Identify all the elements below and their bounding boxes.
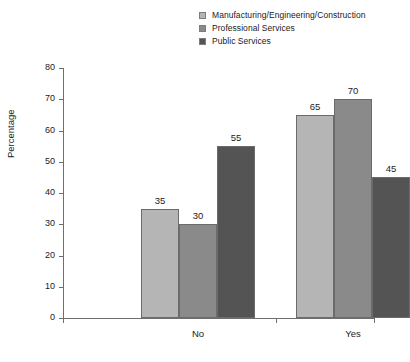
y-axis-tick-label: 80: [33, 63, 55, 72]
x-axis-tick: [276, 319, 277, 323]
bar: [217, 146, 255, 318]
legend-label-series-3: Public Services: [212, 36, 271, 46]
bar-value-label: 70: [348, 86, 359, 96]
legend-item-professional-services: Professional Services: [199, 22, 399, 35]
y-axis-tick-label: 0: [33, 313, 55, 322]
y-axis-tick: [59, 193, 63, 194]
legend-item-manufacturing-engineering-construction: Manufacturing/Engineering/Construction: [199, 9, 399, 22]
bar: [179, 224, 217, 318]
legend-swatch-icon-series-3: [199, 38, 206, 45]
y-axis-tick: [59, 256, 63, 257]
x-axis-category-label: Yes: [345, 328, 361, 339]
y-axis-tick-label: 20: [33, 251, 55, 260]
bar-value-label: 65: [310, 102, 321, 112]
y-axis-tick-label: 40: [33, 188, 55, 197]
y-axis-tick-label: 70: [33, 94, 55, 103]
y-axis-tick: [59, 287, 63, 288]
bar-value-label: 45: [386, 164, 397, 174]
bar: [334, 99, 372, 318]
legend-swatch-icon-series-1: [199, 12, 206, 19]
bar-value-label: 35: [155, 196, 166, 206]
legend-swatch-icon-series-2: [199, 25, 206, 32]
y-axis-tick: [59, 68, 63, 69]
legend-label-series-1: Manufacturing/Engineering/Construction: [212, 10, 366, 20]
bar: [372, 177, 410, 318]
x-axis-line: [63, 318, 375, 319]
bar: [141, 209, 179, 318]
y-axis-tick-label: 10: [33, 282, 55, 291]
x-axis-tick: [63, 319, 64, 323]
legend-item-public-services: Public Services: [199, 35, 399, 48]
y-axis-tick: [59, 131, 63, 132]
y-axis-tick-label: 50: [33, 157, 55, 166]
x-axis-category-label: No: [192, 328, 204, 339]
bar-value-label: 55: [231, 133, 242, 143]
y-axis-tick: [59, 224, 63, 225]
chart-legend: Manufacturing/Engineering/Construction P…: [199, 9, 399, 48]
y-axis-tick-label: 60: [33, 126, 55, 135]
y-axis-tick: [59, 99, 63, 100]
plot-area: 01020304050607080 353055657045 NoYes: [63, 68, 375, 318]
y-axis-title: Percentage: [6, 109, 16, 158]
y-axis-tick-label: 30: [33, 219, 55, 228]
bar: [296, 115, 334, 318]
bar-value-label: 30: [193, 211, 204, 221]
legend-label-series-2: Professional Services: [212, 23, 295, 33]
x-axis-tick: [374, 319, 375, 323]
y-axis-tick: [59, 162, 63, 163]
y-axis-line: [63, 68, 64, 318]
